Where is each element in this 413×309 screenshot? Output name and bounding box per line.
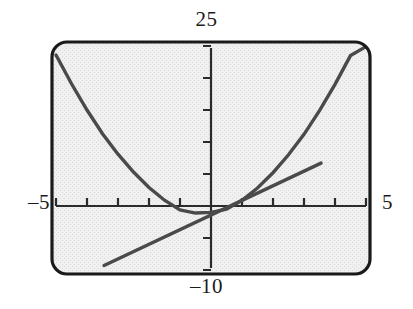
x-min-label: –5	[8, 192, 50, 213]
y-min-label: –10	[0, 276, 413, 297]
plot-viewport	[50, 40, 372, 276]
x-max-label: 5	[382, 192, 410, 213]
graphing-calculator-screen: 25 –10 –5 5	[0, 0, 413, 309]
y-max-label: 25	[0, 9, 413, 30]
plot-canvas	[50, 40, 372, 276]
